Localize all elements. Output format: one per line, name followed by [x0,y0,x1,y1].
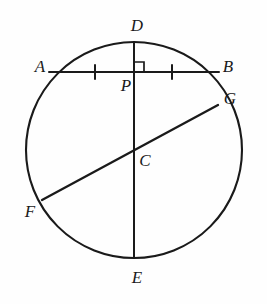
point-label-a: A [35,58,45,75]
point-label-d: D [131,17,143,34]
point-label-f: F [25,203,35,220]
point-label-p: P [121,77,131,94]
point-label-e: E [132,269,142,286]
right-angle-marker-icon [134,62,144,72]
figure-canvas [0,0,267,304]
point-label-c: C [139,152,150,169]
point-label-g: G [224,90,236,107]
point-label-b: B [223,58,233,75]
diameter-fg-line [42,105,218,200]
circle-geometry-figure: D A B P G C F E [0,0,267,304]
